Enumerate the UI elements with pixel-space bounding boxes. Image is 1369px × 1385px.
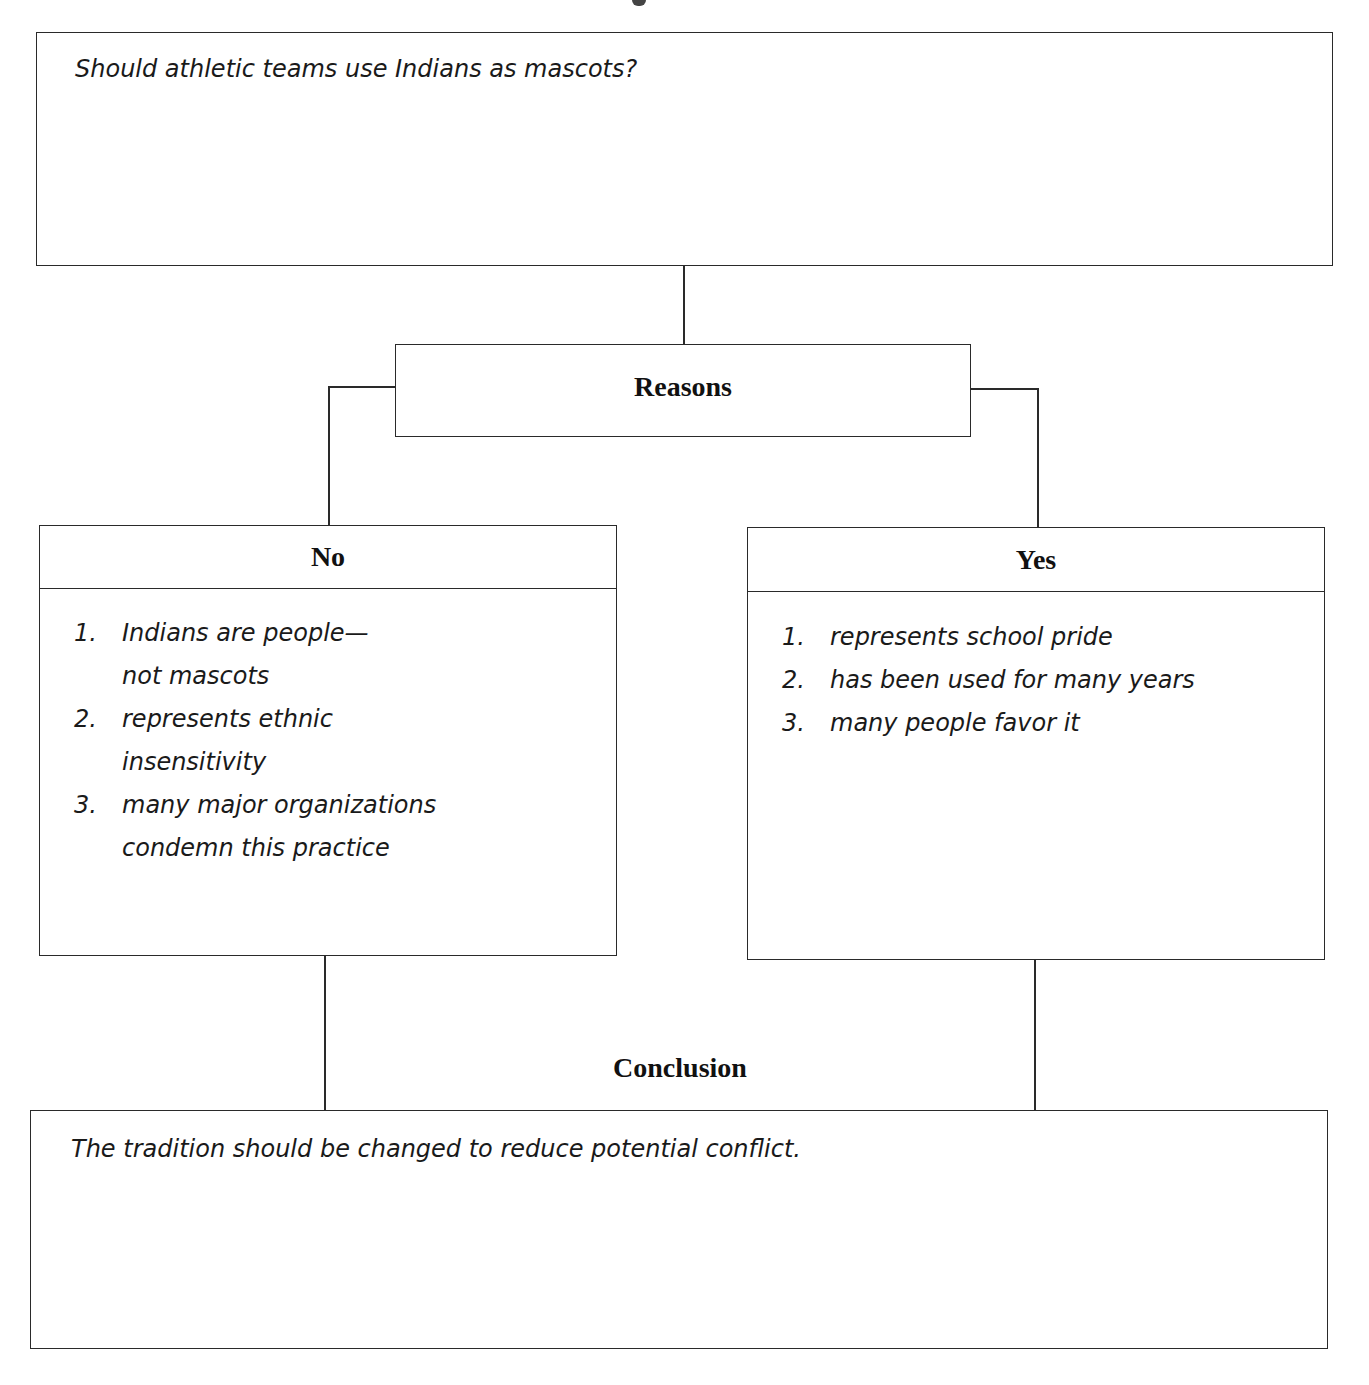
yes-reason-item: 1. represents school pride [782, 616, 1195, 659]
item-number: 2. [782, 659, 830, 702]
no-column-box: No 1. Indians are people—not mascots 2. … [39, 525, 617, 956]
item-line: many major organizations [122, 791, 436, 819]
item-line: represents ethnic [122, 705, 333, 733]
item-number: 3. [782, 702, 830, 745]
no-reason-item: 3. many major organizationscondemn this … [74, 784, 436, 870]
item-line: has been used for many years [830, 659, 1195, 702]
no-reason-item: 1. Indians are people—not mascots [74, 612, 436, 698]
reasons-label: Reasons [396, 371, 970, 403]
yes-reasons-list: 1. represents school pride 2. has been u… [782, 616, 1195, 745]
reasons-box: Reasons [395, 344, 971, 437]
cropped-title-fragment [632, 0, 646, 6]
item-line: not mascots [122, 662, 269, 690]
item-number: 1. [782, 616, 830, 659]
question-box: Should athletic teams use Indians as mas… [36, 32, 1333, 266]
yes-reason-item: 2. has been used for many years [782, 659, 1195, 702]
no-reasons-list: 1. Indians are people—not mascots 2. rep… [74, 612, 436, 870]
item-number: 1. [74, 612, 122, 698]
item-number: 2. [74, 698, 122, 784]
no-label: No [311, 541, 345, 572]
connector-reasons-yes-v [1037, 388, 1039, 528]
item-line: condemn this practice [122, 834, 390, 862]
connector-reasons-no-h [328, 386, 395, 388]
connector-reasons-no-v [328, 386, 330, 526]
connector-yes-conclusion [1034, 960, 1036, 1115]
yes-reason-item: 3. many people favor it [782, 702, 1195, 745]
no-reason-item: 2. represents ethnicinsensitivity [74, 698, 436, 784]
connector-no-conclusion [324, 956, 326, 1111]
item-line: many people favor it [830, 702, 1080, 745]
no-column-header: No [40, 526, 616, 589]
yes-column-box: Yes 1. represents school pride 2. has be… [747, 527, 1325, 960]
yes-label: Yes [1016, 544, 1056, 575]
connector-question-reasons [683, 266, 685, 345]
connector-reasons-yes-h [971, 388, 1038, 390]
item-line: insensitivity [122, 748, 266, 776]
item-number: 3. [74, 784, 122, 870]
conclusion-box: The tradition should be changed to reduc… [30, 1110, 1328, 1349]
conclusion-label: Conclusion [580, 1052, 780, 1084]
yes-column-header: Yes [748, 528, 1324, 592]
item-line: represents school pride [830, 616, 1113, 659]
item-line: Indians are people— [122, 619, 369, 647]
question-text: Should athletic teams use Indians as mas… [75, 55, 637, 83]
conclusion-text: The tradition should be changed to reduc… [71, 1135, 801, 1163]
